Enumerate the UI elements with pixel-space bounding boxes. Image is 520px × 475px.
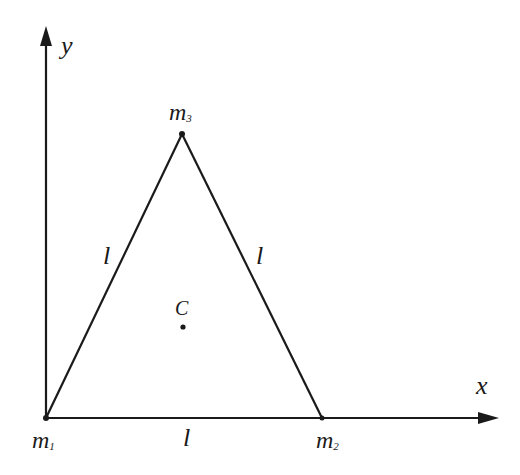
vertex-m2-label: m2 [316,428,339,452]
side-right-label: l [256,243,263,269]
vertex-m3-dot [179,131,185,137]
vertex-m3-label-sub: 3 [186,112,192,124]
vertex-m1-dot [43,415,49,421]
diagram-canvas: y x m3 m1 m2 l l l C [0,0,520,475]
vertex-m1-label-sub: 1 [49,440,55,452]
side-bottom-label: l [183,425,190,451]
y-axis-arrow-icon [40,26,52,46]
center-c-dot [180,324,185,329]
vertex-m2-label-main: m [316,427,333,453]
vertex-m3-label: m3 [169,100,192,124]
y-axis-label: y [61,33,73,59]
vertex-m2-label-sub: 2 [333,440,339,452]
vertex-m1-label-main: m [32,427,49,453]
side-left-label: l [103,243,110,269]
x-axis-label: x [476,373,488,399]
center-c-label: C [175,298,188,318]
side-m1-m3 [46,134,182,418]
triangle-figure [0,0,520,475]
x-axis-arrow-icon [478,412,499,424]
vertex-m3-label-main: m [169,99,186,125]
side-m3-m2 [182,134,322,418]
vertex-m1-label: m1 [32,428,55,452]
vertex-m2-dot [320,416,325,421]
